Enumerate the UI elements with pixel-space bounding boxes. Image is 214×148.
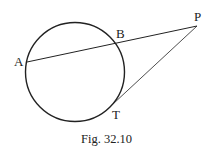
figure-caption: Fig. 32.10: [81, 132, 132, 146]
tangent-line-pt: [113, 26, 197, 104]
label-b: B: [116, 26, 125, 41]
geometry-diagram: A B P T Fig. 32.10: [0, 0, 214, 148]
circle: [26, 23, 125, 122]
label-t: T: [112, 107, 120, 122]
label-a: A: [14, 54, 24, 69]
secant-line-pa: [27, 26, 197, 62]
label-p: P: [194, 9, 201, 24]
